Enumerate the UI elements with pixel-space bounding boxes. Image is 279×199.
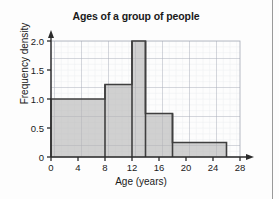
histogram-figure: Ages of a group of people Frequency dens… <box>0 0 279 199</box>
plot-canvas <box>0 0 279 199</box>
